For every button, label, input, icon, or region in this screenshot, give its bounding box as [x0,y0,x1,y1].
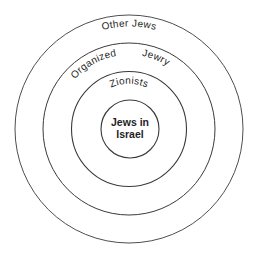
diagram-svg: Other Jews Organized Jewry Zionists Jews… [0,0,263,256]
label-israel: Israel [116,128,144,140]
concentric-circles-diagram: Other Jews Organized Jewry Zionists Jews… [0,0,263,256]
label-jewry: Jewry [141,47,172,68]
label-other-jews: Other Jews [100,17,157,32]
label-jews-in: Jews in [111,116,149,128]
label-zionists: Zionists [108,75,150,90]
label-organized: Organized [68,47,117,81]
